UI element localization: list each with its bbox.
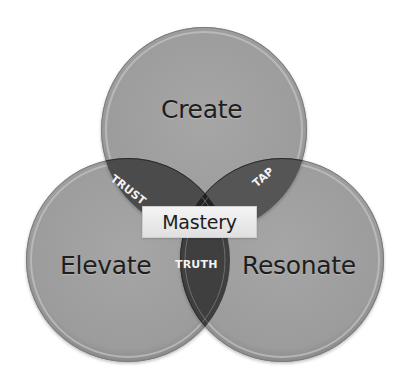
center-label-box: Mastery xyxy=(142,206,257,238)
label-resonate: Resonate xyxy=(242,251,356,280)
label-create: Create xyxy=(161,95,242,124)
venn-diagram xyxy=(0,0,406,380)
label-truth: TRUTH xyxy=(175,258,218,271)
label-mastery: Mastery xyxy=(162,211,237,233)
label-elevate: Elevate xyxy=(60,251,151,280)
